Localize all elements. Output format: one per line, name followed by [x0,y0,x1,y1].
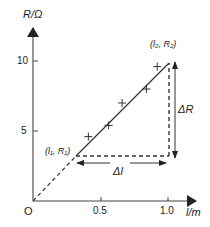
point-1-label: (l₁, R₁) [45,147,70,156]
origin-label: O [24,206,33,217]
delta-l-label: Δl [113,166,123,177]
data-point-cross [118,99,126,107]
y-ticks [33,61,38,131]
y-tick-label-10: 10 [17,56,28,66]
data-points [84,63,161,141]
data-point-cross [84,133,92,141]
delta-r-label: ΔR [178,104,193,115]
data-point-cross [153,63,161,71]
data-point-cross [105,121,113,129]
point-2-label: (l₂, R₂) [150,40,176,49]
y-tick-label-5: 5 [21,126,27,136]
x-axis-label: l/m [186,207,201,218]
x-tick-label-0-5: 0.5 [93,206,107,216]
x-ticks [101,197,168,201]
best-fit-line [76,63,169,156]
data-point-cross [142,85,150,93]
y-axis-label: R/Ω [23,9,42,20]
x-tick-label-1-0: 1.0 [160,206,174,216]
fit-line-extension [33,156,76,201]
